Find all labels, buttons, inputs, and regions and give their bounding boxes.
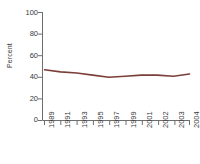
data-series-line — [45, 70, 190, 78]
x-tick-label: 2002 — [162, 111, 170, 128]
line-chart: Percent 100 80 60 40 20 0 — [0, 0, 200, 164]
x-tick-label: 1993 — [81, 111, 89, 128]
x-tick-label: 1997 — [113, 111, 121, 128]
chart-canvas — [0, 0, 200, 164]
x-tick-label: 1995 — [97, 111, 105, 128]
x-tick-label: 2004 — [193, 111, 200, 128]
x-tick-label: 2003 — [178, 111, 186, 128]
x-tick-label: 2001 — [146, 111, 154, 128]
y-axis — [38, 12, 43, 121]
x-tick-label: 1999 — [130, 111, 138, 128]
x-tick-label: 1989 — [48, 111, 56, 128]
x-tick-label: 1991 — [64, 111, 72, 128]
